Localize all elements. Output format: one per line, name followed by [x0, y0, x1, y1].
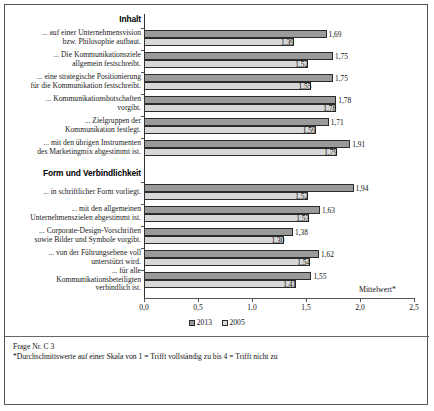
value-label-2013: 1,62	[321, 251, 334, 259]
x-axis-title: Mittelwert*	[359, 285, 396, 294]
plot-area: Inhalt... auf einer Unternehmensvisionbz…	[5, 5, 429, 406]
value-label-2005: 1,52	[295, 193, 308, 201]
bar-2005	[144, 126, 316, 134]
category-label-line: des Marketingmix abgestimmt ist.	[37, 147, 141, 156]
category-label-line: vorgibt.	[117, 103, 141, 112]
category-label-line: für die Kommunikation festschreibt.	[30, 81, 141, 90]
bar-2013	[144, 228, 293, 236]
x-axis-line	[144, 298, 415, 299]
category-label: ... mit den allgemeinenUnternehmensziele…	[0, 205, 141, 222]
category-label-line: allgemein festschreibt.	[72, 59, 141, 68]
value-label-2013: 1,94	[356, 185, 369, 193]
bar-2005	[144, 104, 336, 112]
bar-2005	[144, 60, 308, 68]
value-label-2013: 1,75	[335, 53, 348, 61]
footnote-line-2: *Durchschnittswerte auf einer Skala von …	[13, 352, 278, 362]
bar-2013	[144, 250, 319, 258]
category-label: ... in schriftlicher Form vorliegt.	[0, 188, 141, 197]
x-axis-tick-label: 0,5	[183, 303, 213, 312]
bar-2013	[144, 96, 336, 104]
category-label: ... Zielgruppen derKommunikation festleg…	[0, 117, 141, 134]
category-label: ... auf einer Unternehmensvisionbzw. Phi…	[0, 29, 141, 46]
y-axis-line	[144, 14, 145, 298]
legend-label-2005: 2005	[230, 318, 245, 327]
value-label-2013: 1,78	[338, 97, 351, 105]
bar-2013	[144, 184, 354, 192]
value-label-2005: 1,39	[281, 39, 294, 47]
bar-2005	[144, 258, 310, 266]
chart-frame: Inhalt... auf einer Unternehmensvisionbz…	[4, 4, 428, 405]
value-label-2005: 1,41	[283, 281, 296, 289]
x-axis-tick-label: 2,5	[399, 303, 429, 312]
category-label: ... Kommunikationsbotschaftenvorgibt.	[0, 95, 141, 112]
value-label-2005: 1,54	[297, 259, 310, 267]
category-label-line: Unternehmenszielen abgestimmt ist.	[30, 213, 141, 222]
category-label-line: verbindlich ist.	[95, 283, 141, 292]
legend-item-2013: 2013	[189, 318, 212, 327]
bar-2005	[144, 82, 311, 90]
bar-2005	[144, 236, 284, 244]
category-label: ... mit den übrigen Instrumentendes Mark…	[0, 139, 141, 156]
value-label-2005: 1,52	[295, 61, 308, 69]
legend: 20132005	[5, 318, 429, 327]
category-label-line: bzw. Philosophie aufbaut.	[63, 37, 141, 46]
section-heading-2: Form und Verbindlichkeit	[0, 168, 141, 178]
category-label-line: sowie Bilder und Symbole vorgibt.	[35, 235, 141, 244]
x-axis-tick-label: 1,5	[291, 303, 321, 312]
section-heading-1: Inhalt	[0, 14, 141, 24]
x-axis-tick	[414, 299, 415, 302]
category-label: ... für alleKommunikationsbeteiligtenver…	[0, 267, 141, 293]
legend-swatch-2005	[222, 320, 228, 326]
x-axis-tick-label: 0,0	[129, 303, 159, 312]
footnote-line-1: Frage Nr. C 3	[13, 342, 54, 352]
value-label-2013: 1,63	[322, 207, 335, 215]
bar-2005	[144, 38, 294, 46]
value-label-2013: 1,71	[331, 119, 344, 127]
bar-2013	[144, 30, 327, 38]
x-axis-tick-label: 2,0	[345, 303, 375, 312]
value-label-2013: 1,91	[352, 141, 365, 149]
value-label-2005: 1,78	[323, 105, 336, 113]
value-label-2013: 1,69	[329, 31, 342, 39]
x-axis-tick	[198, 299, 199, 302]
category-label-line: Kommunikation festlegt.	[65, 125, 141, 134]
value-label-2013: 1,75	[335, 75, 348, 83]
legend-swatch-2013	[189, 320, 195, 326]
x-axis-tick	[252, 299, 253, 302]
value-label-2013: 1,38	[295, 229, 308, 237]
category-label: ... eine strategische Positionierungfür …	[0, 73, 141, 90]
bar-2005	[144, 214, 309, 222]
value-label-2005: 1,59	[303, 127, 316, 135]
bar-2013	[144, 272, 311, 280]
category-label: ... Die Kommunikationszieleallgemein fes…	[0, 51, 141, 68]
value-label-2005: 1,30	[271, 237, 284, 245]
category-label: ... von der Führungsebene vollunterstütz…	[0, 249, 141, 266]
value-label-2005: 1,55	[298, 83, 311, 91]
value-label-2005: 1,79	[324, 149, 337, 157]
x-axis-tick	[360, 299, 361, 302]
legend-label-2013: 2013	[197, 318, 212, 327]
category-label: ... Corporate-Design-Vorschriftensowie B…	[0, 227, 141, 244]
value-label-2005: 1,53	[296, 215, 309, 223]
legend-item-2005: 2005	[222, 318, 245, 327]
category-label-line: unterstützt wird.	[91, 257, 141, 266]
bar-2013	[144, 206, 320, 214]
bar-2013	[144, 74, 333, 82]
x-axis-tick	[306, 299, 307, 302]
bar-2013	[144, 118, 329, 126]
bar-2005	[144, 192, 308, 200]
value-label-2013: 1,55	[313, 273, 326, 281]
bar-2013	[144, 140, 350, 148]
footnote-separator	[5, 336, 429, 337]
category-label-line: ... in schriftlicher Form vorliegt.	[43, 187, 141, 196]
bar-2005	[144, 280, 296, 288]
x-axis-tick	[144, 299, 145, 302]
bar-2005	[144, 148, 337, 156]
x-axis-tick-label: 1,0	[237, 303, 267, 312]
bar-2013	[144, 52, 333, 60]
